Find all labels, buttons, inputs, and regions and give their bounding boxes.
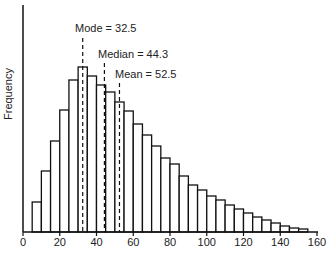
- histogram-bar: [32, 202, 41, 232]
- mode-annotation: Mode = 32.5: [75, 22, 136, 34]
- histogram-bar: [106, 92, 115, 232]
- histogram-bars: [32, 67, 308, 232]
- x-tick-label: 40: [90, 236, 102, 248]
- histogram-bar: [161, 158, 170, 232]
- histogram-bar: [198, 190, 207, 232]
- histogram-bar: [225, 205, 234, 232]
- x-tick-label: 160: [308, 236, 326, 248]
- histogram-bar: [69, 80, 78, 232]
- histogram-bar: [262, 220, 271, 232]
- x-tick-label: 80: [164, 236, 176, 248]
- histogram-bar: [188, 185, 197, 232]
- histogram-bar: [41, 171, 50, 232]
- x-tick-label: 0: [20, 236, 26, 248]
- histogram-bar: [216, 200, 225, 232]
- histogram-bar: [51, 141, 60, 232]
- mean-annotation: Mean = 52.5: [115, 68, 176, 80]
- x-tick-label: 20: [54, 236, 66, 248]
- histogram-bar: [87, 76, 96, 232]
- histogram-bar: [170, 164, 179, 232]
- histogram-bar: [207, 196, 216, 232]
- histogram-bar: [60, 110, 69, 232]
- x-tick-label: 120: [234, 236, 252, 248]
- x-tick-label: 60: [127, 236, 139, 248]
- histogram-chart: [0, 0, 336, 253]
- histogram-bar: [271, 223, 280, 232]
- histogram-bar: [133, 124, 142, 232]
- histogram-bar: [142, 135, 151, 232]
- histogram-bar: [124, 111, 133, 232]
- median-annotation: Median = 44.3: [98, 48, 168, 60]
- histogram-bar: [244, 213, 253, 232]
- y-axis-label: Frequency: [2, 68, 14, 120]
- histogram-bar: [253, 217, 262, 232]
- histogram-bar: [152, 146, 161, 232]
- histogram-bar: [234, 209, 243, 232]
- histogram-bar: [280, 226, 289, 232]
- x-tick-label: 100: [198, 236, 216, 248]
- x-tick-label: 140: [271, 236, 289, 248]
- histogram-bar: [179, 176, 188, 232]
